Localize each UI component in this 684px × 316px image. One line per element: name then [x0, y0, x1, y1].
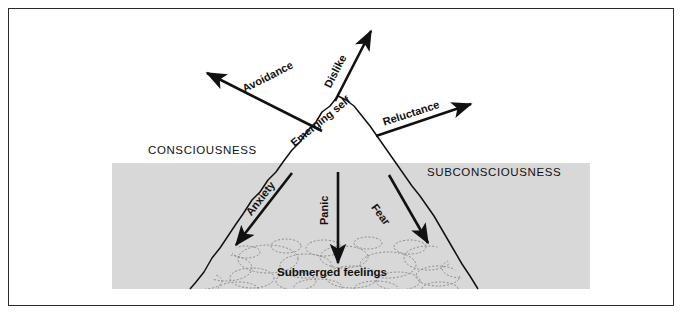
label-subconsciousness: SUBCONSCIOUSNESS — [427, 166, 561, 178]
diagram-page: CONSCIOUSNESS SUBCONSCIOUSNESS Emerging … — [0, 0, 684, 316]
label-consciousness: CONSCIOUSNESS — [148, 144, 257, 156]
label-submerged-feelings: Submerged feelings — [277, 266, 387, 278]
label-panic: Panic — [318, 196, 330, 225]
